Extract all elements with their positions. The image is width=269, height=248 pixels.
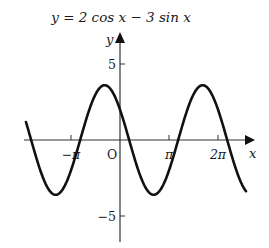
y-tick-label: −5 xyxy=(98,209,116,224)
y-axis-label: y xyxy=(105,32,114,47)
function-graph: y = 2 cos x − 3 sin x x y O −ππ2π5−5 xyxy=(0,0,269,248)
y-axis-arrow-icon xyxy=(115,32,125,43)
x-axis-label: x xyxy=(249,146,257,161)
chart-title: y = 2 cos x − 3 sin x xyxy=(50,9,191,25)
origin-label: O xyxy=(107,147,117,162)
y-tick-label: 5 xyxy=(108,57,116,72)
x-tick-label: 2π xyxy=(209,147,227,162)
x-axis-arrow-icon xyxy=(245,135,255,145)
